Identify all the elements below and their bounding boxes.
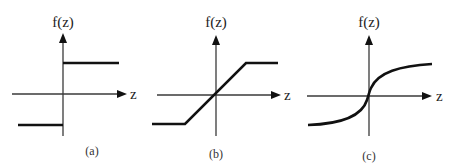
panel-c-caption: (c) — [362, 149, 375, 163]
panel-a-y-arrow-icon — [59, 33, 67, 43]
activation-functions-figure: f(z) z (a) f(z) z (b) f(z) z (c) — [0, 0, 453, 167]
panel-b-y-arrow-icon — [212, 35, 220, 45]
panel-a: f(z) z (a) — [12, 14, 137, 158]
panel-b-x-arrow-icon — [271, 91, 281, 99]
panel-c-y-axis-label: f(z) — [358, 14, 380, 31]
panel-a-x-arrow-icon — [117, 90, 127, 98]
panel-c: f(z) z (c) — [307, 14, 443, 163]
panel-a-y-axis-label: f(z) — [52, 14, 74, 31]
panel-b-caption: (b) — [209, 147, 223, 161]
panel-b: f(z) z (b) — [152, 14, 291, 161]
panel-a-x-axis-label: z — [130, 86, 137, 102]
panel-c-sigmoid-curve — [308, 64, 432, 125]
panel-b-y-axis-label: f(z) — [205, 14, 227, 31]
panel-a-caption: (a) — [85, 144, 98, 158]
panel-b-x-axis-label: z — [284, 87, 291, 103]
panel-c-x-axis-label: z — [436, 88, 443, 104]
panel-c-y-arrow-icon — [365, 35, 373, 45]
panel-b-ramp-curve — [152, 63, 278, 124]
panel-c-x-arrow-icon — [422, 92, 432, 100]
